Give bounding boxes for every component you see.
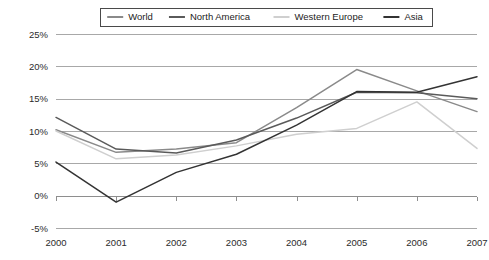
series-line-western-europe	[56, 102, 477, 159]
data-series-group	[56, 70, 477, 203]
y-axis-tick-label: 10%	[29, 126, 49, 137]
x-axis-tick-label: 2002	[166, 237, 187, 248]
y-axis-tick-label: 15%	[29, 93, 49, 104]
chart-legend: WorldNorth AmericaWestern EuropeAsia	[100, 8, 433, 26]
legend-label-asia: Asia	[404, 11, 423, 22]
line-chart: -5%0%5%10%15%20%25% 20002001200220032004…	[0, 0, 489, 260]
legend-label-north-america: North America	[190, 11, 251, 22]
y-axis-tick-label: 5%	[34, 158, 48, 169]
x-axis-tick-label: 2005	[346, 237, 367, 248]
y-axis-tick-label: -5%	[31, 223, 48, 234]
chart-canvas: -5%0%5%10%15%20%25% 20002001200220032004…	[0, 0, 489, 260]
x-axis-tick-label: 2006	[406, 237, 427, 248]
x-axis-tick-label: 2003	[226, 237, 247, 248]
series-line-asia	[56, 77, 477, 202]
x-axis-labels: 20002001200220032004200520062007	[45, 237, 487, 248]
x-axis-tick-label: 2000	[45, 237, 66, 248]
y-axis-labels: -5%0%5%10%15%20%25%	[29, 29, 49, 234]
x-axis-tick-label: 2001	[106, 237, 127, 248]
gridlines	[56, 35, 477, 229]
x-axis-tick-label: 2007	[466, 237, 487, 248]
x-axis-tick-label: 2004	[286, 237, 307, 248]
y-axis-tick-label: 0%	[34, 190, 48, 201]
y-axis-tick-label: 25%	[29, 29, 49, 40]
series-line-north-america	[56, 92, 477, 153]
y-axis-tick-label: 20%	[29, 61, 49, 72]
legend-label-western-europe: Western Europe	[295, 11, 363, 22]
legend-label-world: World	[128, 11, 153, 22]
